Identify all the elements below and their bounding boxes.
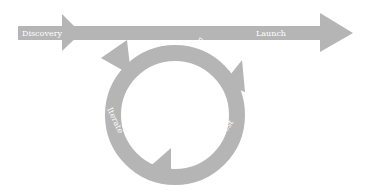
discovery-arrowhead-icon [62, 14, 81, 51]
launch-label: Launch [256, 29, 286, 38]
cycle-arrowhead-top-icon [101, 40, 131, 75]
iteration-cycle [101, 40, 245, 182]
product-lifecycle-diagram: Discovery Launch Build Test Iterate [0, 0, 370, 190]
launch-arrowhead-icon [320, 13, 353, 52]
cycle-ring [113, 53, 237, 177]
discovery-label: Discovery [22, 29, 62, 38]
